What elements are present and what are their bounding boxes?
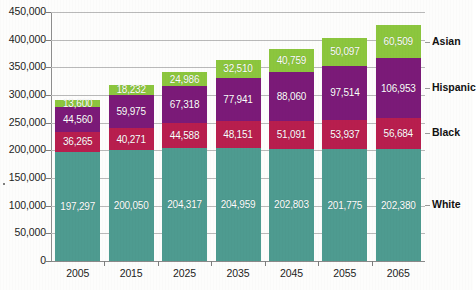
bar-segment-asian[interactable]: 32,510: [216, 60, 261, 78]
bar-segment-hispanic[interactable]: 59,975: [109, 95, 154, 128]
y-tick-mark: [45, 12, 51, 13]
legend-label-asian: Asian: [432, 35, 461, 47]
bar-value-label: 204,317: [167, 199, 202, 210]
x-tick-mark: [211, 261, 212, 266]
y-tick-label: 150,000: [0, 171, 46, 183]
bar-value-label: 59,975: [116, 106, 145, 117]
x-tick-label: 2015: [104, 267, 157, 279]
bar-value-label: 40,759: [277, 55, 306, 66]
bar-segment-hispanic[interactable]: 67,318: [162, 86, 207, 123]
bar-segment-asian[interactable]: 18,232: [109, 85, 154, 95]
bar-segment-asian[interactable]: 50,097: [322, 38, 367, 66]
legend-label-black: Black: [432, 126, 460, 138]
x-tick-mark: [265, 261, 266, 266]
bar-value-label: 36,265: [63, 136, 92, 147]
bar-segment-asian[interactable]: 40,759: [269, 49, 314, 72]
bar-segment-white[interactable]: 197,297: [55, 152, 100, 261]
y-tick-mark: [45, 150, 51, 151]
bar-stack[interactable]: 200,05040,27159,97518,232: [109, 12, 154, 261]
x-tick-label: 2055: [318, 267, 371, 279]
bar-value-label: 200,050: [114, 200, 149, 211]
bar-value-label: 97,514: [330, 87, 359, 98]
bar-segment-white[interactable]: 200,050: [109, 150, 154, 261]
bar-value-label: 18,232: [116, 84, 145, 95]
x-tick-label: 2035: [211, 267, 264, 279]
y-tick-label: 0: [0, 254, 46, 266]
bar-value-label: 50,097: [330, 46, 359, 57]
chart-legend: AsianHispanicBlackWhite: [432, 0, 473, 290]
bar-segment-white[interactable]: 204,317: [162, 148, 207, 261]
scan-artifact-dot: [3, 183, 5, 185]
bar-segment-black[interactable]: 44,588: [162, 123, 207, 148]
y-tick-mark: [45, 95, 51, 96]
bar-stack[interactable]: 202,80351,09188,06040,759: [269, 12, 314, 261]
bar-value-label: 202,380: [381, 200, 416, 211]
bar-segment-asian[interactable]: 60,509: [376, 25, 421, 58]
plot-area: 197,29736,26544,56013,600200,05040,27159…: [51, 12, 425, 261]
y-tick-mark: [45, 206, 51, 207]
y-tick-mark: [45, 233, 51, 234]
y-tick-label: 100,000: [0, 199, 46, 211]
bar-value-label: 77,941: [223, 94, 252, 105]
bar-stack[interactable]: 204,31744,58867,31824,986: [162, 12, 207, 261]
bar-segment-hispanic[interactable]: 44,560: [55, 107, 100, 132]
bar-segment-white[interactable]: 201,775: [322, 149, 367, 261]
bar-segment-hispanic[interactable]: 97,514: [322, 66, 367, 120]
legend-leader-line: [425, 42, 430, 43]
y-tick-mark: [45, 40, 51, 41]
y-axis-labels: 050,000100,000150,000200,000250,000300,0…: [0, 0, 46, 290]
bar-segment-hispanic[interactable]: 106,953: [376, 58, 421, 117]
bar-segment-black[interactable]: 56,684: [376, 118, 421, 149]
x-tick-mark: [104, 261, 105, 266]
bar-value-label: 53,937: [330, 129, 359, 140]
bar-segment-hispanic[interactable]: 88,060: [269, 72, 314, 121]
bar-value-label: 56,684: [384, 128, 413, 139]
legend-label-white: White: [432, 198, 461, 210]
gridline: [51, 261, 425, 262]
bar-value-label: 106,953: [381, 83, 416, 94]
bar-segment-black[interactable]: 53,937: [322, 120, 367, 150]
bar-value-label: 201,775: [327, 200, 362, 211]
bar-stack[interactable]: 204,95948,15177,94132,510: [216, 12, 261, 261]
bar-value-label: 67,318: [170, 99, 199, 110]
y-tick-label: 450,000: [0, 5, 46, 17]
x-tick-mark: [372, 261, 373, 266]
legend-leader-line: [425, 133, 430, 134]
y-tick-label: 300,000: [0, 88, 46, 100]
bar-segment-black[interactable]: 36,265: [55, 132, 100, 152]
bar-value-label: 40,271: [116, 134, 145, 145]
bar-value-label: 13,600: [63, 98, 92, 109]
x-tick-label: 2045: [265, 267, 318, 279]
bar-value-label: 44,560: [63, 114, 92, 125]
bar-value-label: 24,986: [170, 74, 199, 85]
bar-segment-asian[interactable]: 13,600: [55, 100, 100, 108]
bar-value-label: 32,510: [223, 63, 252, 74]
legend-leader-line: [425, 205, 430, 206]
bar-segment-white[interactable]: 204,959: [216, 148, 261, 261]
bar-segment-white[interactable]: 202,803: [269, 149, 314, 261]
bar-stack[interactable]: 202,38056,684106,95360,509: [376, 12, 421, 261]
y-tick-mark: [45, 123, 51, 124]
y-tick-mark: [45, 261, 51, 262]
legend-leader-line: [425, 88, 430, 89]
bar-stack[interactable]: 201,77553,93797,51450,097: [322, 12, 367, 261]
bar-segment-asian[interactable]: 24,986: [162, 72, 207, 86]
y-tick-label: 350,000: [0, 60, 46, 72]
bar-value-label: 44,588: [170, 130, 199, 141]
bar-segment-black[interactable]: 51,091: [269, 121, 314, 149]
y-tick-label: 400,000: [0, 33, 46, 45]
bar-value-label: 51,091: [277, 129, 306, 140]
bar-segment-hispanic[interactable]: 77,941: [216, 78, 261, 121]
bar-value-label: 202,803: [274, 199, 309, 210]
y-tick-mark: [45, 178, 51, 179]
x-tick-label: 2005: [51, 267, 104, 279]
bar-value-label: 60,509: [384, 36, 413, 47]
y-tick-label: 250,000: [0, 116, 46, 128]
bar-value-label: 197,297: [60, 201, 95, 212]
bar-segment-black[interactable]: 40,271: [109, 128, 154, 150]
bar-segment-black[interactable]: 48,151: [216, 121, 261, 148]
x-tick-label: 2025: [158, 267, 211, 279]
bar-stack[interactable]: 197,29736,26544,56013,600: [55, 12, 100, 261]
bar-segment-white[interactable]: 202,380: [376, 149, 421, 261]
